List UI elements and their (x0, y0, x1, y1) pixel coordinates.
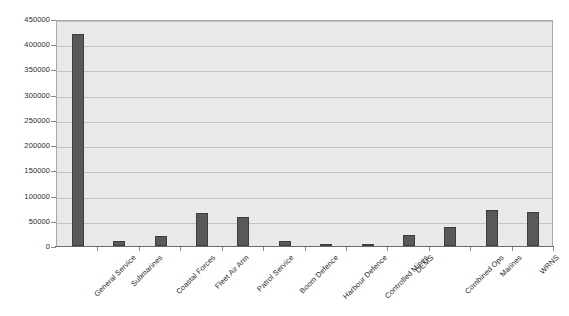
bar-chart: 4500004000003500003000002500002000001500… (0, 0, 569, 316)
y-axis-tick-mark (51, 70, 56, 71)
y-axis-tick-mark (51, 146, 56, 147)
gridline (57, 223, 552, 224)
x-axis-tick-label: DEMS (413, 253, 435, 275)
y-axis-tick-label: 200000 (24, 142, 50, 150)
x-axis-tick-mark (180, 247, 181, 251)
x-axis-tick-mark (512, 247, 513, 251)
gridline (57, 97, 552, 98)
y-axis-tick-mark (51, 96, 56, 97)
y-axis-tick-mark (51, 45, 56, 46)
bar (486, 210, 498, 246)
bar (444, 227, 456, 246)
x-axis-tick-mark (470, 247, 471, 251)
x-axis-tick-mark (429, 247, 430, 251)
y-axis-tick-mark (51, 121, 56, 122)
y-axis-tick-label: 400000 (24, 41, 50, 49)
x-axis-tick-mark (387, 247, 388, 251)
x-axis-tick-label: General Service (92, 253, 137, 298)
bar (72, 34, 84, 246)
gridline (57, 46, 552, 47)
y-axis-tick-label: 150000 (24, 167, 50, 175)
y-axis-tick-label: 300000 (24, 92, 50, 100)
y-axis-tick-mark (51, 247, 56, 248)
x-axis-tick-label: Boom Defence (298, 253, 340, 295)
y-axis-tick-label: 450000 (24, 16, 50, 24)
bar (155, 236, 167, 246)
x-axis-tick-mark (305, 247, 306, 251)
y-axis: 4500004000003500003000002500002000001500… (0, 0, 50, 316)
x-axis-tick-mark (97, 247, 98, 251)
y-axis-tick-label: 100000 (24, 193, 50, 201)
bar (403, 235, 415, 246)
bar (196, 213, 208, 246)
gridline (57, 147, 552, 148)
y-axis-tick-mark (51, 197, 56, 198)
x-axis-tick-mark (346, 247, 347, 251)
y-axis-tick-label: 50000 (29, 218, 50, 226)
x-axis-tick-mark (139, 247, 140, 251)
bar (527, 212, 539, 246)
x-axis-tick-label: Fleet Air Arm (213, 253, 251, 291)
gridline (57, 122, 552, 123)
gridline (57, 21, 552, 22)
y-axis-tick-label: 250000 (24, 117, 50, 125)
bar (237, 217, 249, 246)
gridline (57, 71, 552, 72)
y-axis-tick-mark (51, 171, 56, 172)
x-axis-tick-label: WRNS (538, 253, 561, 276)
y-axis-tick-label: 0 (46, 243, 50, 251)
plot-area (56, 20, 553, 247)
gridline (57, 172, 552, 173)
y-axis-tick-mark (51, 222, 56, 223)
x-axis-tick-mark (263, 247, 264, 251)
y-axis-tick-mark (51, 20, 56, 21)
y-axis-tick-label: 350000 (24, 66, 50, 74)
gridline (57, 198, 552, 199)
x-axis-tick-mark (553, 247, 554, 251)
x-axis-tick-label: Patrol Service (255, 253, 295, 293)
x-axis-tick-mark (222, 247, 223, 251)
x-axis-tick-label: Coastal Forces (174, 253, 217, 296)
